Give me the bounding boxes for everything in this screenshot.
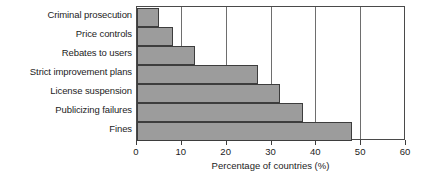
category-label-license-suspension: License suspension bbox=[0, 86, 132, 96]
category-label-criminal-prosecution: Criminal prosecution bbox=[0, 10, 132, 20]
category-label-rebates-to-users: Rebates to users bbox=[0, 48, 132, 58]
x-tick-label-40: 40 bbox=[303, 146, 327, 157]
plot-area bbox=[136, 6, 405, 140]
x-tick-20 bbox=[226, 140, 227, 145]
x-tick-30 bbox=[271, 140, 272, 145]
x-tick-10 bbox=[181, 140, 182, 145]
bar-publicizing-failures bbox=[137, 103, 303, 122]
gridline-40 bbox=[315, 7, 316, 139]
x-tick-60 bbox=[405, 140, 406, 145]
x-tick-40 bbox=[315, 140, 316, 145]
x-tick-50 bbox=[360, 140, 361, 145]
bar-criminal-prosecution bbox=[137, 8, 159, 27]
bar-price-controls bbox=[137, 27, 173, 46]
category-label-strict-improvement-plans: Strict improvement plans bbox=[0, 67, 132, 77]
bar-fines bbox=[137, 122, 352, 141]
x-tick-0 bbox=[136, 140, 137, 145]
x-tick-label-0: 0 bbox=[124, 146, 148, 157]
bar-rebates-to-users bbox=[137, 46, 195, 65]
category-axis: Criminal prosecution Price controls Reba… bbox=[0, 6, 132, 140]
bar-strict-improvement-plans bbox=[137, 65, 258, 84]
x-tick-label-30: 30 bbox=[259, 146, 283, 157]
x-tick-label-20: 20 bbox=[214, 146, 238, 157]
category-label-price-controls: Price controls bbox=[0, 29, 132, 39]
gridline-50 bbox=[360, 7, 361, 139]
x-tick-label-10: 10 bbox=[169, 146, 193, 157]
category-label-publicizing-failures: Publicizing failures bbox=[0, 105, 132, 115]
category-label-fines: Fines bbox=[0, 124, 132, 134]
bar-license-suspension bbox=[137, 84, 280, 103]
x-axis-title: Percentage of countries (%) bbox=[136, 160, 405, 171]
x-tick-label-60: 60 bbox=[393, 146, 417, 157]
x-tick-label-50: 50 bbox=[348, 146, 372, 157]
horizontal-bar-chart: Criminal prosecution Price controls Reba… bbox=[0, 0, 436, 178]
